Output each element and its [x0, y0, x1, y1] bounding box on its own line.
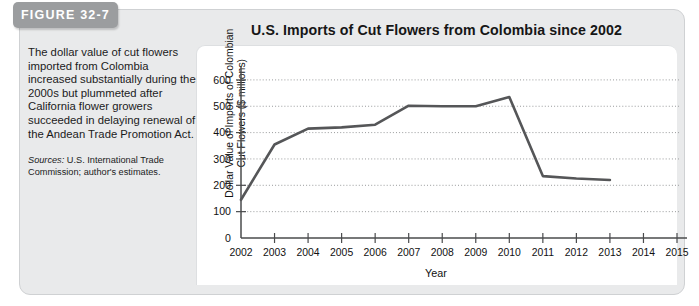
y-axis-tick-label: 0 — [225, 232, 231, 244]
chart-title: U.S. Imports of Cut Flowers from Colombi… — [196, 22, 677, 38]
y-axis-tick-label: 300 — [213, 153, 231, 165]
y-axis-tick-label: 200 — [213, 179, 231, 191]
figure-description-column: The dollar value of cut flowers imported… — [28, 46, 196, 178]
y-axis-tick-label: 400 — [213, 126, 231, 138]
figure-root: FIGURE 32-7 U.S. Imports of Cut Flowers … — [0, 0, 699, 306]
line-chart-svg: 0100200300400500600200220032004200520062… — [196, 45, 699, 306]
x-axis-tick-label: 2013 — [598, 247, 621, 258]
x-axis-tick-label: 2014 — [632, 247, 655, 258]
x-axis-tick-label: 2012 — [565, 247, 588, 258]
figure-description-text: The dollar value of cut flowers imported… — [28, 46, 196, 141]
x-axis-tick-label: 2005 — [330, 247, 353, 258]
x-axis-tick-label: 2002 — [229, 247, 252, 258]
x-axis-tick-label: 2004 — [297, 247, 320, 258]
sources-label: Sources: — [28, 155, 64, 165]
x-axis-tick-label: 2011 — [532, 247, 555, 258]
x-axis-tick-label: 2008 — [431, 247, 454, 258]
x-axis-tick-label: 2010 — [498, 247, 521, 258]
figure-number-tab: FIGURE 32-7 — [13, 2, 118, 28]
x-axis-tick-label: 2007 — [397, 247, 420, 258]
x-axis-tick-label: 2003 — [263, 247, 286, 258]
y-axis-tick-label: 500 — [213, 100, 231, 112]
x-axis-tick-label: 2006 — [364, 247, 387, 258]
x-axis-tick-label: 2009 — [464, 247, 487, 258]
data-series-line — [241, 97, 610, 200]
figure-number-label: FIGURE 32-7 — [13, 2, 118, 28]
x-axis-tick-label: 2015 — [665, 247, 688, 258]
y-axis-tick-label: 600 — [213, 74, 231, 86]
plot-area: Dollar Value of Imports of Colombian Cut… — [196, 45, 699, 306]
figure-sources: Sources: U.S. International Trade Commis… — [28, 154, 196, 178]
y-axis-tick-label: 100 — [213, 205, 231, 217]
